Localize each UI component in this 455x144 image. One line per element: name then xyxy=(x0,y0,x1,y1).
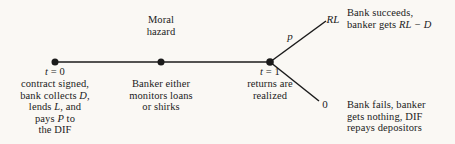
math-var-p: P xyxy=(57,113,64,124)
node-label-t0-time: t = 0 xyxy=(2,66,108,78)
branch-payoff-label-rl: RL xyxy=(322,14,344,26)
node-label-t1-time-rest: = 1 xyxy=(263,66,280,77)
outcome-text-failure: Bank fails, bankergets nothing, DIFrepay… xyxy=(347,99,455,134)
moral-hazard-timeline-diagram: t = 0 contract signed,bank collects D,le… xyxy=(0,0,455,144)
outcome-failure-line2: gets nothing, DIF xyxy=(347,111,423,122)
node-caption-t1-below: returns are realized xyxy=(228,78,312,101)
node-label-t1-time: t = 1 xyxy=(228,66,312,78)
node-caption-moral-hazard-above: Moral hazard xyxy=(124,14,198,37)
branch-payoff-label-zero: 0 xyxy=(318,99,332,111)
outcome-failure-line1: Bank fails, banker xyxy=(347,99,425,110)
branch-probability-label-p: p xyxy=(283,31,297,43)
outcome-text-success: Bank succeeds,banker gets RL − D xyxy=(347,7,455,30)
node-dot-moral-hazard xyxy=(158,59,165,66)
branch-line-success xyxy=(270,21,326,62)
node-label-t0-time-rest: = 0 xyxy=(48,66,65,77)
outcome-success-line2-prefix: banker gets xyxy=(347,19,399,30)
node-dot-t1 xyxy=(266,58,274,66)
node-caption-t0: contract signed,bank collects D,lends L,… xyxy=(0,78,110,136)
math-var-l: L xyxy=(54,101,60,112)
outcome-success-line2-math: RL − D xyxy=(399,19,432,30)
node-dot-t0 xyxy=(52,59,59,66)
node-caption-moral-hazard-below: Banker either monitors loans or shirks xyxy=(111,78,211,113)
math-var-d: D xyxy=(79,90,87,101)
outcome-failure-line3: repays depositors xyxy=(347,122,422,133)
outcome-success-line1: Bank succeeds, xyxy=(347,7,413,18)
